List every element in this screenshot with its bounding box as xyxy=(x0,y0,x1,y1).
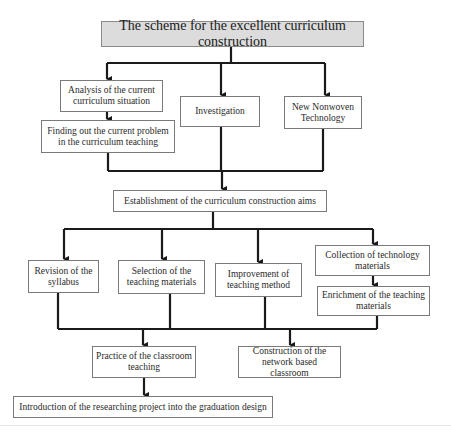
node-finding: Finding out the current problem in the c… xyxy=(41,120,175,153)
page-divider xyxy=(0,425,451,426)
node-nonwoven: New Nonwoven Technology xyxy=(284,96,362,129)
node-construction: Construction of the network based classr… xyxy=(238,346,341,378)
node-analysis: Analysis of the current curriculum situa… xyxy=(60,80,163,112)
node-enrichment: Enrichment of the teaching materials xyxy=(317,286,430,316)
flowchart-canvas: The scheme for the excellent curriculum … xyxy=(0,0,451,437)
node-revision: Revision of the syllabus xyxy=(28,260,99,293)
node-practice: Practice of the classroom teaching xyxy=(92,346,196,378)
node-selection: Selection of the teaching materials xyxy=(118,260,205,294)
node-aims: Establishment of the curriculum construc… xyxy=(113,190,327,212)
node-investigation: Investigation xyxy=(180,96,260,127)
connector-lines xyxy=(0,0,451,437)
node-collection: Collection of technology materials xyxy=(315,245,430,276)
node-improvement: Improvement of teaching method xyxy=(215,263,302,297)
node-introduction: Introduction of the researching project … xyxy=(13,396,273,418)
title-box: The scheme for the excellent curriculum … xyxy=(101,21,364,47)
